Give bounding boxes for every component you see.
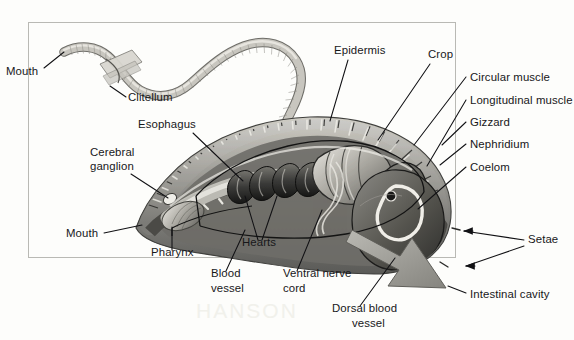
label-longitudinal-muscle: Longitudinal muscle [470,94,573,106]
label-dorsal-blood-1: Dorsal blood [332,302,397,314]
label-gizzard: Gizzard [470,116,510,128]
label-hearts: Hearts [242,236,276,248]
label-blood-vessel-2: vessel [211,282,244,294]
label-dorsal-blood-2: vessel [352,317,385,329]
label-intestinal-cavity: Intestinal cavity [470,288,550,300]
label-mouth-bottom: Mouth [66,227,98,239]
label-blood-vessel-1: Blood [211,267,241,279]
label-ventral-nerve-2: cord [283,282,306,294]
page-bleed-text: HANSON [196,299,298,322]
label-cerebral-ganglion-2: ganglion [90,160,134,172]
label-setae: Setae [528,233,558,245]
label-ventral-nerve-1: Ventral nerve [283,267,351,279]
label-esophagus: Esophagus [138,118,196,130]
label-clitellum: Clitellum [128,91,173,103]
figure-canvas: HANSON [0,0,574,340]
label-pharynx: Pharynx [151,246,194,258]
label-coelom: Coelom [470,161,510,173]
label-nephridium: Nephridium [470,138,529,150]
label-crop: Crop [428,48,453,60]
label-circular-muscle: Circular muscle [470,71,550,83]
label-mouth-top: Mouth [6,65,38,77]
svg-text:HANSON: HANSON [196,299,298,322]
label-epidermis: Epidermis [334,44,386,56]
label-cerebral-ganglion-1: Cerebral [90,146,134,158]
